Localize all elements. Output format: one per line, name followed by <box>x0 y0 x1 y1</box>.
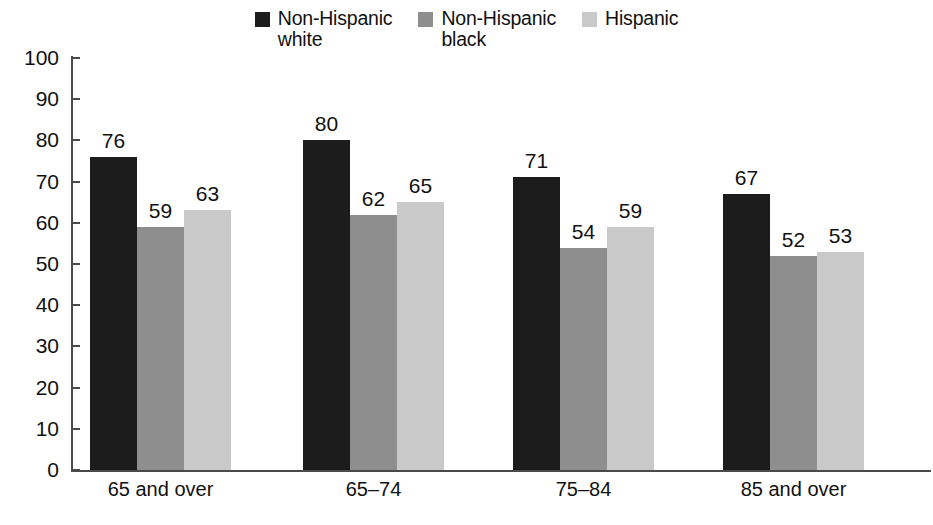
legend-item-non-hispanic-white: Non-Hispanic white <box>255 8 393 50</box>
y-tick-80 <box>71 139 80 141</box>
bar-value-label-1-2: 65 <box>397 175 444 197</box>
y-tick-label-50: 50 <box>0 253 59 274</box>
bar-3-2 <box>817 252 864 470</box>
legend-swatch-hispanic <box>582 12 597 27</box>
y-tick-label-40: 40 <box>0 294 59 315</box>
y-tick-20 <box>71 387 80 389</box>
y-tick-50 <box>71 263 80 265</box>
y-tick-90 <box>71 98 80 100</box>
legend-swatch-non-hispanic-black <box>418 12 433 27</box>
y-tick-label-100: 100 <box>0 47 59 68</box>
bar-value-label-1-1: 62 <box>350 188 397 210</box>
bar-value-label-0-2: 63 <box>184 183 231 205</box>
y-tick-label-60: 60 <box>0 212 59 233</box>
y-tick-label-30: 30 <box>0 335 59 356</box>
bar-value-label-0-1: 59 <box>137 200 184 222</box>
bar-0-0 <box>90 157 137 470</box>
legend-swatch-non-hispanic-white <box>255 12 270 27</box>
bar-value-label-3-2: 53 <box>817 225 864 247</box>
category-label-2: 75–84 <box>473 478 694 500</box>
bar-value-label-2-1: 54 <box>560 221 607 243</box>
bar-value-label-2-0: 71 <box>513 150 560 172</box>
y-tick-label-20: 20 <box>0 377 59 398</box>
bar-1-0 <box>303 140 350 470</box>
bar-value-label-3-0: 67 <box>723 167 770 189</box>
chart-legend: Non-Hispanic white Non-Hispanic black Hi… <box>0 8 933 50</box>
y-tick-label-10: 10 <box>0 418 59 439</box>
bar-0-1 <box>137 227 184 470</box>
x-axis-line <box>71 470 931 472</box>
legend-label-non-hispanic-white: Non-Hispanic white <box>278 8 393 50</box>
bar-value-label-1-0: 80 <box>303 113 350 135</box>
legend-label-hispanic: Hispanic <box>605 8 678 29</box>
category-label-0: 65 and over <box>50 478 271 500</box>
bar-value-label-3-1: 52 <box>770 229 817 251</box>
y-tick-label-80: 80 <box>0 129 59 150</box>
y-tick-40 <box>71 304 80 306</box>
y-tick-10 <box>71 428 80 430</box>
bar-value-label-0-0: 76 <box>90 130 137 152</box>
legend-label-non-hispanic-black: Non-Hispanic black <box>441 8 556 50</box>
y-tick-70 <box>71 181 80 183</box>
bar-1-2 <box>397 202 444 470</box>
bar-3-1 <box>770 256 817 470</box>
y-tick-label-70: 70 <box>0 171 59 192</box>
bar-2-0 <box>513 177 560 470</box>
bar-2-1 <box>560 248 607 470</box>
y-tick-label-0: 0 <box>0 459 59 480</box>
y-tick-0 <box>71 469 80 471</box>
bar-value-label-2-2: 59 <box>607 200 654 222</box>
bar-2-2 <box>607 227 654 470</box>
bar-0-2 <box>184 210 231 470</box>
category-label-1: 65–74 <box>263 478 484 500</box>
y-tick-100 <box>71 57 80 59</box>
y-tick-label-90: 90 <box>0 88 59 109</box>
bar-1-1 <box>350 215 397 470</box>
y-tick-30 <box>71 345 80 347</box>
bar-chart: Non-Hispanic white Non-Hispanic black Hi… <box>0 0 933 525</box>
legend-item-non-hispanic-black: Non-Hispanic black <box>418 8 556 50</box>
legend-item-hispanic: Hispanic <box>582 8 678 29</box>
category-label-3: 85 and over <box>683 478 904 500</box>
bar-3-0 <box>723 194 770 470</box>
y-tick-60 <box>71 222 80 224</box>
